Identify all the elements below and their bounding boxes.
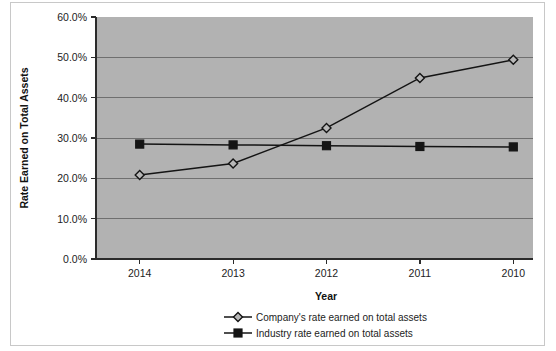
legend-item-industry[interactable]: Industry rate earned on total assets (224, 328, 413, 339)
data-point-industry-2014 (136, 140, 144, 148)
data-point-industry-2012 (323, 142, 331, 150)
data-point-industry-2010 (509, 143, 517, 151)
legend-marker-filled-square-icon (234, 329, 242, 337)
y-tick-label-30: 30.0% (57, 132, 87, 144)
y-tick-label-60: 60.0% (57, 11, 87, 23)
y-tick-label-40: 40.0% (57, 92, 87, 104)
x-axis-title: Year (315, 290, 337, 302)
x-axis-tick-labels: 2014 2013 2012 2011 2010 (128, 267, 525, 279)
legend-item-company[interactable]: Company's rate earned on total assets (224, 312, 427, 323)
y-tick-label-10: 10.0% (57, 213, 87, 225)
data-point-industry-2011 (416, 143, 424, 151)
y-axis-title: Rate Earned on Total Assets (18, 67, 30, 208)
x-tick-label-2010: 2010 (502, 267, 526, 279)
y-axis-tick-marks (91, 17, 96, 259)
x-tick-label-2014: 2014 (128, 267, 152, 279)
x-tick-label-2012: 2012 (315, 267, 339, 279)
y-axis-tick-labels: 60.0% 50.0% 40.0% 30.0% 20.0% 10.0% 0.0% (57, 11, 87, 265)
legend-marker-open-diamond-icon (234, 313, 243, 322)
x-tick-label-2011: 2011 (409, 267, 432, 279)
y-tick-label-50: 50.0% (57, 51, 87, 63)
chart-legend: Company's rate earned on total assets In… (224, 312, 427, 339)
x-tick-label-2013: 2013 (221, 267, 245, 279)
y-tick-label-0: 0.0% (63, 253, 87, 265)
legend-label-industry: Industry rate earned on total assets (256, 328, 413, 339)
legend-label-company: Company's rate earned on total assets (256, 312, 427, 323)
y-tick-label-20: 20.0% (57, 172, 87, 184)
data-point-industry-2013 (229, 141, 237, 149)
line-chart-figure: 60.0% 50.0% 40.0% 30.0% 20.0% 10.0% 0.0%… (0, 0, 556, 351)
x-axis-tick-marks (140, 259, 514, 264)
